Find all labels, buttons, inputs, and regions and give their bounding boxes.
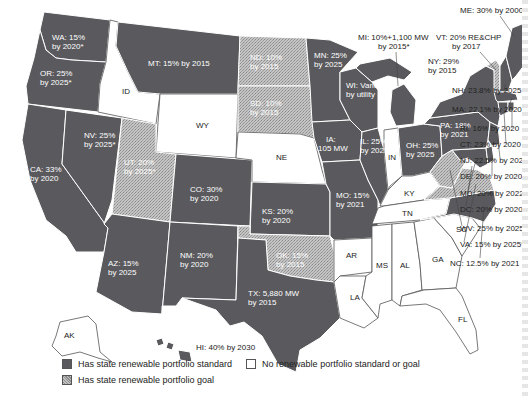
label-mn-year: by 2025 [314, 60, 343, 69]
label-mi-year: by 2015* [378, 42, 410, 51]
label-oh-year: by 2025 [406, 150, 435, 159]
label-mn: MN: 25% [314, 51, 347, 60]
label-ne: NE [276, 153, 287, 162]
label-ca: CA: 33% [30, 165, 62, 174]
label-co-year: by 2020 [190, 194, 219, 203]
label-ok: OK: 15% [276, 251, 308, 260]
legend-item-goal: Has state renewable portfolio goal [62, 375, 214, 385]
label-wv: WV: 25% by 2025* [460, 224, 527, 233]
label-il-year: by 2025 [360, 146, 389, 155]
legend-item-standard: Has state renewable portfolio standard [62, 359, 232, 369]
label-nm: NM: 20% [180, 251, 213, 260]
label-nd: ND: 10% [250, 53, 282, 62]
label-va: VA: 15% by 2025* [460, 240, 524, 249]
page-edge [522, 0, 528, 400]
legend: Has state renewable portfolio standard N… [62, 356, 434, 388]
state-ia [312, 120, 362, 162]
label-wa: WA: 15% [52, 33, 85, 42]
legend-swatch-goal [62, 375, 72, 385]
label-nm-year: by 2020 [180, 260, 209, 269]
label-nv: NV: 25% [84, 131, 115, 140]
label-ct: CT: 23% by 2020 [460, 140, 521, 149]
label-in: IN [388, 153, 396, 162]
label-az-year: by 2025 [108, 268, 137, 277]
label-ak: AK [64, 331, 75, 340]
label-ny: NY: 29% [428, 57, 459, 66]
label-ks-year: by 2020 [262, 216, 291, 225]
label-il: IL: 25% [360, 137, 387, 146]
legend-swatch-none [246, 359, 256, 369]
label-mo-year: by 2021 [336, 200, 365, 209]
label-wi: WI: Varies [346, 81, 382, 90]
label-az: AZ: 15% [108, 259, 139, 268]
label-nc: NC: 12.5% by 2021 [450, 259, 520, 268]
label-sd-year: by 2015 [250, 108, 279, 117]
state-mt [116, 22, 240, 94]
label-oh: OH: 25% [406, 141, 438, 150]
label-ca-year: by 2020 [30, 174, 59, 183]
legend-swatch-standard [62, 359, 72, 369]
label-co: CO: 30% [190, 185, 222, 194]
label-nv-year: by 2025* [84, 140, 116, 149]
label-ga: GA [432, 255, 444, 264]
label-md: MD: 20% by 2022 [460, 189, 524, 198]
label-ny-year: by 2015 [428, 66, 457, 75]
label-ut-year: by 2025* [124, 167, 156, 176]
label-ar: AR [346, 251, 357, 260]
label-tx: TX: 5,880 MW [248, 289, 300, 298]
legend-label-standard: Has state renewable portfolio standard [78, 359, 232, 369]
us-rps-map: WA: 15% by 2020* OR: 25% by 2025* CA: 33… [0, 0, 528, 400]
label-al: AL [400, 261, 410, 270]
label-ia: IA: [326, 135, 336, 144]
label-vt: VT: 20% RE&CHP [436, 33, 501, 42]
label-nj: NJ: 22.5% by 2021 [460, 156, 528, 165]
label-nd-year: by 2015 [250, 62, 279, 71]
label-ok-year: by 2015 [276, 260, 305, 269]
label-wi-utility: by utility [346, 90, 375, 99]
label-ri: RI: 16% by 2020 [460, 124, 520, 133]
label-ky: KY [404, 189, 415, 198]
legend-label-goal: Has state renewable portfolio goal [78, 375, 214, 385]
label-wy: WY [196, 121, 210, 130]
legend-label-none: No renewable portfolio standard or goal [262, 359, 420, 369]
label-ut: UT: 20% [124, 158, 154, 167]
label-nh: NH: 23.8% by 2025 [452, 86, 522, 95]
label-fl: FL [458, 315, 468, 324]
leader-me [500, 16, 514, 36]
label-tx-year: by 2015 [248, 298, 277, 307]
label-sd: SD: 10% [250, 99, 282, 108]
label-mo: MO: 15% [336, 191, 369, 200]
label-ms: MS [376, 261, 388, 270]
label-or: OR: 25% [40, 69, 72, 78]
label-wa-year: by 2020* [52, 42, 84, 51]
legend-item-none: No renewable portfolio standard or goal [246, 359, 420, 369]
label-la: LA [350, 293, 360, 302]
label-mt: MT: 15% by 2015 [148, 59, 210, 68]
label-dc: DC: 20% by 2020 [460, 205, 523, 214]
label-me: ME: 30% by 2000 [460, 6, 524, 15]
label-vt-year: by 2017 [452, 42, 481, 51]
label-hi: HI: 40% by 2030 [196, 343, 256, 352]
label-ia-mw: 105 MW [318, 144, 348, 153]
label-or-year: by 2025* [40, 78, 72, 87]
label-tn: TN [402, 209, 413, 218]
label-ks: KS: 20% [262, 207, 293, 216]
label-id: ID [122, 87, 130, 96]
label-mi: MI: 10%+1,100 MW [358, 33, 429, 42]
